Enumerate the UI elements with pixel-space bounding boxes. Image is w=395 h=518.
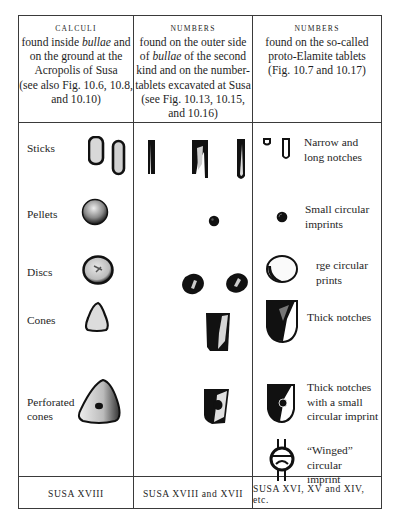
header-line: found on the so-called [253, 36, 381, 50]
disc-token-icon [82, 254, 114, 286]
perforated-cone-token-icon [75, 378, 123, 426]
pellet-token-icon [81, 198, 109, 226]
header-line: kind and on the number- [134, 64, 252, 78]
header-line: (Fig. 10.7 and 10.17) [253, 64, 381, 78]
footer-period-col1: SUSA XVIII [19, 477, 133, 510]
header-line: proto-Elamite tablets [253, 50, 381, 64]
thick-notch-with-imprint-icon [266, 383, 296, 425]
header-line: and 10.10) [19, 93, 133, 107]
header-line: (see also Fig. 10.6, 10.8, [19, 79, 133, 93]
header-line: and 10.16) [134, 107, 252, 121]
thick-notch-icon [265, 299, 299, 345]
footer-period-col3: SUSA XVI, XV and XIV, etc. [253, 477, 381, 510]
note-thick-notches-with-small-imprint: Thick notcheswith a smallcircular imprin… [307, 380, 378, 424]
row-label-cones: Cones [27, 313, 55, 327]
header-line: found inside bullae and [19, 36, 133, 50]
footer-period-col2: SUSA XVIII and XVII [134, 477, 252, 510]
narrow-notch-icon [263, 138, 291, 160]
row-label-discs: Discs [27, 265, 52, 279]
header-line: (see Fig. 10.13, 10.15, [134, 93, 252, 107]
note-small-circular-imprints: Small circularimprints [305, 202, 369, 231]
calculi-comparison-table: CALCULI found inside bullae and on the g… [18, 15, 382, 509]
header-numbers-tablets: NUMBERS found on the so-called proto-Ela… [253, 16, 381, 123]
perforated-cone-impression-icon [202, 387, 230, 427]
note-thick-notches: Thick notches [307, 310, 371, 325]
header-line: Acropolis of Susa [19, 64, 133, 78]
large-circle-imprint-icon [265, 254, 299, 284]
row-label-sticks: Sticks [27, 141, 55, 155]
pellet-impression-icon [208, 215, 220, 227]
disc-impression-icon [181, 272, 251, 296]
row-label-perforated-cones: Perforated cones [27, 395, 74, 423]
header-line: of bullae of the second [134, 50, 252, 64]
winged-circle-imprint-icon [268, 438, 296, 482]
header-calculi: CALCULI found inside bullae and on the g… [19, 16, 133, 123]
row-label-pellets: Pellets [27, 207, 57, 221]
header-caption: NUMBERS [134, 23, 252, 35]
cone-token-icon [83, 301, 111, 333]
cone-impression-icon [204, 311, 232, 353]
header-line: on the ground at the [19, 50, 133, 64]
header-line: found on the outer side [134, 36, 252, 50]
header-caption: CALCULI [19, 23, 133, 35]
small-circle-imprint-icon [276, 211, 288, 223]
note-narrow-long-notches: Narrow andlong notches [304, 135, 362, 164]
header-numbers-bullae: NUMBERS found on the outer side of bulla… [134, 16, 252, 123]
stick-impression-icon [146, 134, 250, 184]
note-large-circular-imprints: rge circularprints [316, 258, 368, 287]
stick-token-icon [88, 136, 132, 178]
header-line: tablets excavated at Susa [134, 79, 252, 93]
header-caption: NUMBERS [253, 23, 381, 35]
